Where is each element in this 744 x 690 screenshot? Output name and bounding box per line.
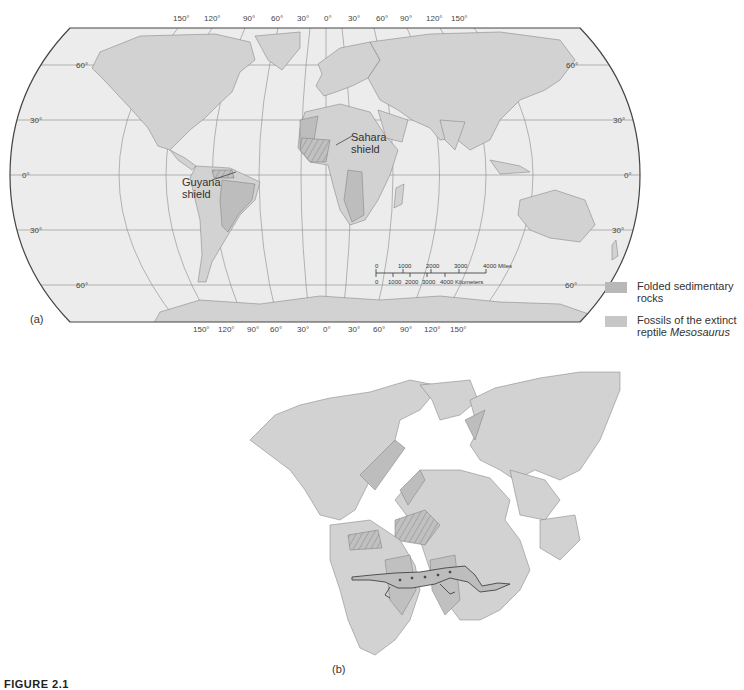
sahara-shield-label: Sahara shield xyxy=(351,131,386,155)
legend-swatch-folded xyxy=(605,282,627,293)
legend-item-mesosaurus: Fossils of the extinct reptile Mesosauru… xyxy=(605,314,737,338)
legend-swatch-fossils xyxy=(605,316,627,327)
pangaea-map-b xyxy=(250,372,620,655)
panel-a-label: (a) xyxy=(30,313,43,325)
panel-b-label: (b) xyxy=(332,663,345,675)
guyana-shield-label: Guyana shield xyxy=(182,176,221,200)
legend-item-folded-rocks: Folded sedimentary rocks xyxy=(605,280,734,304)
figure-caption: FIGURE 2.1 xyxy=(4,678,69,690)
